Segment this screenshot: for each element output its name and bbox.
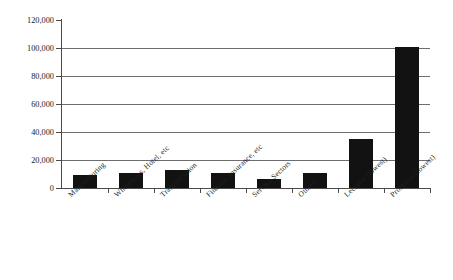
y-axis-tick-label: 0 xyxy=(0,184,54,193)
bar-chart: 020,00040,00060,00080,000100,000120,000 … xyxy=(0,0,453,280)
x-axis-tick-mark xyxy=(430,189,431,193)
y-axis-tick-label: 120,000 xyxy=(0,16,54,25)
x-axis-tick-mark xyxy=(246,189,247,193)
y-axis-tick-label: 100,000 xyxy=(0,44,54,53)
y-axis-tick-mark xyxy=(56,48,61,49)
x-axis-tick-mark xyxy=(200,189,201,193)
y-axis-tick-mark xyxy=(56,76,61,77)
x-axis-tick-mark xyxy=(292,189,293,193)
y-axis-tick-label: 60,000 xyxy=(0,100,54,109)
y-axis-tick-mark xyxy=(56,132,61,133)
x-axis-tick-mark xyxy=(384,189,385,193)
y-axis-tick-label: 20,000 xyxy=(0,156,54,165)
y-axis-tick-label: 40,000 xyxy=(0,128,54,137)
y-axis-tick-label: 80,000 xyxy=(0,72,54,81)
y-axis-tick-mark xyxy=(56,104,61,105)
y-axis-tick-mark xyxy=(56,20,61,21)
y-axis-tick-mark xyxy=(56,160,61,161)
x-axis-tick-mark xyxy=(154,189,155,193)
y-axis-tick-mark xyxy=(56,188,61,189)
x-axis-tick-mark xyxy=(338,189,339,193)
x-axis-tick-mark xyxy=(108,189,109,193)
